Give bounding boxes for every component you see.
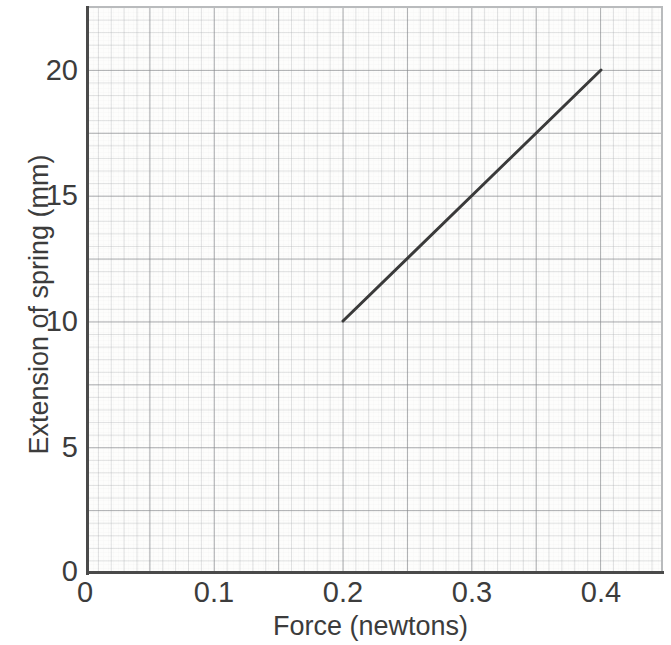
y-axis-title: Extension of spring (mm) xyxy=(24,5,55,605)
x-tick-label-4: 0.4 xyxy=(581,578,621,607)
y-axis-line xyxy=(86,6,89,575)
y-tick-label-1: 5 xyxy=(62,433,78,462)
x-tick-label-0: 0 xyxy=(77,578,93,607)
paper-texture xyxy=(88,7,663,573)
spring-extension-line-chart: 0 0.1 0.2 0.3 0.4 0 5 10 15 20 Force (ne… xyxy=(0,0,671,645)
x-tick-label-1: 0.1 xyxy=(194,578,234,607)
plot-top-border xyxy=(88,6,663,8)
x-tick-label-3: 0.3 xyxy=(452,578,492,607)
y-tick-label-0: 0 xyxy=(62,557,78,586)
x-axis-title: Force (newtons) xyxy=(0,611,671,642)
x-axis-title-text: Force (newtons) xyxy=(203,611,468,641)
x-tick-label-2: 0.2 xyxy=(323,578,363,607)
plot-area xyxy=(88,7,663,573)
x-axis-line xyxy=(86,571,664,574)
plot-right-border xyxy=(661,7,663,573)
